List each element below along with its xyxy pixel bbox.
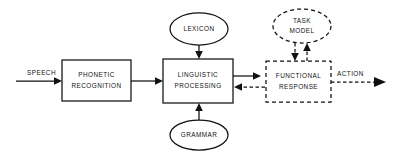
linguistic-processing-label-line1: LINGUISTIC <box>178 71 218 78</box>
action-output-label: ACTION <box>337 70 364 77</box>
edge-functional-to-linguistic <box>234 83 265 91</box>
phonetic-to-linguistic-arrowhead <box>155 77 163 85</box>
speech-input-label: SPEECH <box>27 69 56 76</box>
node-task-model: TASK MODEL <box>273 9 331 43</box>
functional-response-label-line2: RESPONSE <box>279 83 318 90</box>
edge-taskmodel-to-functional <box>291 43 299 61</box>
linguistic-processing-label-line2: PROCESSING <box>174 82 221 89</box>
action-output-arrowhead <box>374 77 386 87</box>
node-functional-response: FUNCTIONAL RESPONSE <box>266 61 331 102</box>
node-phonetic-recognition: PHONETIC RECOGNITION <box>62 60 131 101</box>
task-model-label-line1: TASK <box>293 17 311 24</box>
functional-to-linguistic-arrowhead <box>234 83 242 91</box>
functional-response-box <box>266 61 331 102</box>
edge-action-output: ACTION <box>331 70 386 87</box>
phonetic-recognition-box <box>62 60 131 101</box>
linguistic-to-functional-arrowhead <box>253 72 261 80</box>
edge-phonetic-to-linguistic <box>131 77 163 85</box>
diagram-canvas: SPEECH <box>0 0 401 161</box>
functional-response-label-line1: FUNCTIONAL <box>276 72 321 79</box>
task-model-label-line2: MODEL <box>290 27 315 34</box>
grammar-to-linguistic-arrowhead <box>195 103 203 111</box>
grammar-label: GRAMMAR <box>181 131 218 138</box>
edge-speech-input: SPEECH <box>16 69 62 85</box>
node-lexicon: LEXICON <box>170 13 228 45</box>
lexicon-label: LEXICON <box>183 25 214 32</box>
edge-lexicon-to-linguistic <box>195 45 203 59</box>
phonetic-recognition-label-line1: PHONETIC <box>78 71 115 78</box>
edge-grammar-to-linguistic <box>195 103 203 120</box>
node-linguistic-processing: LINGUISTIC PROCESSING <box>163 59 233 103</box>
speech-input-arrowhead <box>54 77 62 85</box>
taskmodel-to-functional-arrowhead <box>291 53 299 61</box>
edge-functional-to-taskmodel <box>303 43 311 61</box>
phonetic-recognition-label-line2: RECOGNITION <box>71 82 121 89</box>
node-grammar: GRAMMAR <box>170 120 228 150</box>
edge-linguistic-to-functional <box>233 72 261 80</box>
functional-to-taskmodel-arrowhead <box>303 43 311 51</box>
lexicon-to-linguistic-arrowhead <box>195 51 203 59</box>
speech-understanding-diagram: SPEECH <box>0 0 401 161</box>
